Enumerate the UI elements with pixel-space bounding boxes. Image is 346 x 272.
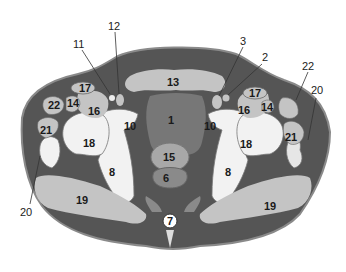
label-19-right: 19 <box>264 200 276 212</box>
pelvis-cross-section-diagram: 11 12 3 2 22 20 20 13 1 15 6 7 10 10 8 8… <box>0 0 346 272</box>
label-16-right: 16 <box>238 104 250 116</box>
label-18-right: 18 <box>240 138 252 150</box>
label-17-right: 17 <box>249 87 261 99</box>
label-21-right: 21 <box>285 131 297 143</box>
structure-2-right-vessel <box>223 95 230 102</box>
label-22-right: 22 <box>302 60 314 72</box>
label-11: 11 <box>73 38 84 50</box>
label-19-left: 19 <box>76 194 88 206</box>
label-20-left: 20 <box>20 206 32 218</box>
label-6: 6 <box>163 172 169 184</box>
label-14-right: 14 <box>261 101 274 113</box>
label-3: 3 <box>240 35 246 47</box>
label-14-left: 14 <box>67 97 80 109</box>
label-13: 13 <box>167 76 179 88</box>
label-8-right: 8 <box>225 166 231 178</box>
label-10-left: 10 <box>124 120 136 132</box>
label-20-right: 20 <box>311 84 323 96</box>
label-22-left: 22 <box>48 99 60 111</box>
structure-3-right-vessel <box>212 95 222 109</box>
label-16-left: 16 <box>88 105 100 117</box>
structure-18-left-femoral-head <box>63 112 109 156</box>
label-12: 12 <box>108 20 120 32</box>
label-21-left: 21 <box>40 124 52 136</box>
label-15: 15 <box>163 151 175 163</box>
structure-6 <box>153 168 187 189</box>
label-7: 7 <box>167 215 173 227</box>
label-8-left: 8 <box>109 166 115 178</box>
structure-12-left-vessel <box>116 94 124 106</box>
label-2: 2 <box>262 51 268 63</box>
label-1: 1 <box>168 114 174 126</box>
label-17-left: 17 <box>79 82 91 94</box>
label-10-right: 10 <box>204 120 216 132</box>
label-18-left: 18 <box>83 137 95 149</box>
structure-11-left-vessel <box>109 95 115 101</box>
